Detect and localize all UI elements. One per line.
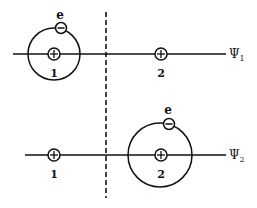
state-psi2: 1 2 e Ψ2 [25, 103, 245, 187]
electron-label: e [56, 8, 64, 22]
wavefunction-label: Ψ2 [229, 148, 245, 164]
diagram: 1 2 e Ψ1 [0, 0, 257, 208]
diagram-canvas: 1 2 e Ψ1 [0, 0, 257, 208]
electron: e [164, 103, 175, 130]
proton-label: 2 [157, 67, 165, 80]
proton-1: 1 [48, 48, 60, 80]
electron: e [56, 8, 67, 34]
wavefunction-label: Ψ1 [229, 47, 245, 63]
proton-2: 2 [155, 48, 167, 80]
proton-1: 1 [48, 149, 60, 181]
proton-2: 2 [155, 149, 167, 181]
proton-label: 2 [157, 168, 165, 181]
electron-label: e [164, 103, 172, 117]
state-psi1: 1 2 e Ψ1 [13, 8, 245, 80]
proton-label: 1 [50, 67, 58, 80]
proton-label: 1 [50, 168, 58, 181]
